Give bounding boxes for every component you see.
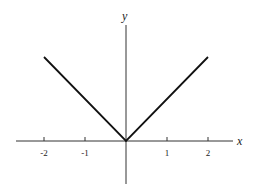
x-tick-label: -2	[40, 148, 48, 158]
x-tick-label: -1	[81, 148, 89, 158]
x-tick-label: 1	[165, 148, 170, 158]
x-axis-label: x	[236, 134, 243, 148]
y-axis-label: y	[121, 9, 128, 23]
x-tick-labels: -2-112	[40, 148, 210, 158]
x-tick-label: 2	[206, 148, 211, 158]
absolute-value-graph: -2-112 x y	[0, 0, 257, 192]
